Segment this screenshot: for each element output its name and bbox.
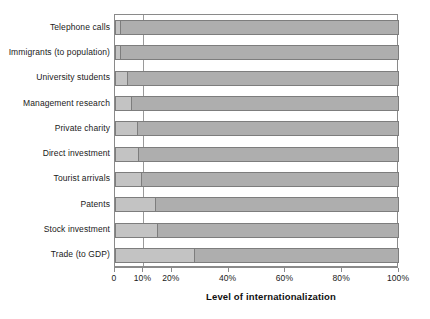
x-tick-label: 10% bbox=[134, 273, 151, 283]
plot-area bbox=[114, 14, 398, 267]
x-axis-line bbox=[114, 267, 398, 268]
y-axis-label: Immigrants (to population) bbox=[9, 47, 110, 57]
bar-segment-domestic bbox=[141, 172, 399, 187]
bar-segment-domestic bbox=[194, 248, 399, 263]
y-axis-label: Management research bbox=[23, 98, 110, 108]
bar-segment-domestic bbox=[127, 71, 399, 86]
y-axis-label: University students bbox=[36, 72, 110, 82]
bar-segment-international bbox=[115, 147, 139, 162]
bar-segment-domestic bbox=[120, 20, 399, 35]
y-axis-label: Patents bbox=[80, 199, 110, 209]
x-tick-label: 100% bbox=[387, 273, 409, 283]
y-axis-label: Private charity bbox=[55, 123, 110, 133]
bar-segment-international bbox=[115, 223, 158, 238]
x-tick-label: 80% bbox=[333, 273, 350, 283]
y-axis-label: Trade (to GDP) bbox=[51, 249, 110, 259]
y-axis-label: Stock investment bbox=[44, 224, 110, 234]
x-axis-title: Level of internationalization bbox=[0, 291, 430, 302]
bar-segment-domestic bbox=[155, 197, 399, 212]
bar-segment-international bbox=[115, 172, 142, 187]
x-tick bbox=[341, 268, 342, 272]
x-tick bbox=[142, 268, 143, 272]
bar-segment-international bbox=[115, 121, 138, 136]
x-tick bbox=[114, 268, 115, 272]
bar-segment-international bbox=[115, 197, 156, 212]
x-tick bbox=[228, 268, 229, 272]
bar-segment-domestic bbox=[137, 121, 399, 136]
x-tick bbox=[284, 268, 285, 272]
x-tick-label: 0 bbox=[112, 273, 117, 283]
bar-segment-domestic bbox=[131, 96, 399, 111]
x-tick-label: 60% bbox=[276, 273, 293, 283]
bar-segment-international bbox=[115, 96, 132, 111]
bar-segment-international bbox=[115, 248, 195, 263]
bars-layer bbox=[115, 15, 397, 266]
x-tick bbox=[398, 268, 399, 272]
bar-segment-domestic bbox=[138, 147, 399, 162]
y-axis-label: Direct investment bbox=[43, 148, 110, 158]
y-axis-label: Telephone calls bbox=[50, 22, 110, 32]
y-axis-label: Tourist arrivals bbox=[54, 173, 110, 183]
x-tick bbox=[171, 268, 172, 272]
chart-figure: Telephone callsImmigrants (to population… bbox=[0, 0, 430, 319]
bar-segment-domestic bbox=[120, 45, 399, 60]
x-tick-label: 40% bbox=[219, 273, 236, 283]
bar-segment-domestic bbox=[157, 223, 399, 238]
x-tick-label: 20% bbox=[162, 273, 179, 283]
